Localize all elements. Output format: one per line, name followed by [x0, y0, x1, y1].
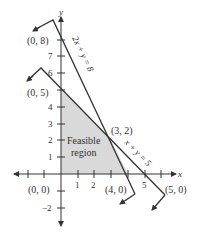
y-tick-3: 3 [48, 119, 53, 129]
linear-programming-graph: x y 1 2 5 −2 1 2 3 4 6 7 (0, 8) (0, 5) (… [0, 0, 197, 238]
y-tick-7: 7 [48, 51, 53, 61]
arrow-x-y-5-bottom [152, 195, 165, 210]
point-label-4-0: (4, 0) [105, 184, 127, 196]
y-tick-4: 4 [48, 102, 53, 112]
equation-label-x-y-5: x + y = 5 [122, 137, 154, 169]
y-tick-6: 6 [48, 68, 53, 78]
equation-label-2x-y-8: 2x + y = 8 [70, 34, 96, 73]
point-label-3-2: (3, 2) [111, 125, 133, 137]
y-tick-2: 2 [48, 135, 53, 145]
x-tick-1: 1 [75, 180, 80, 190]
y-axis-label: y [58, 7, 63, 17]
region-label-line1: Feasible [67, 135, 101, 146]
x-axis-label: x [177, 169, 182, 179]
point-label-0-5: (0, 5) [27, 87, 49, 99]
y-tick-neg2: −2 [42, 203, 52, 213]
point-label-5-0: (5, 0) [165, 184, 187, 196]
point-label-0-8: (0, 8) [27, 35, 49, 47]
graph-canvas: x y 1 2 5 −2 1 2 3 4 6 7 (0, 8) (0, 5) (… [0, 0, 197, 238]
arrow-2x-y-8-bottom [120, 194, 135, 204]
y-tick-1: 1 [48, 152, 53, 162]
arrow-x-y-5-top [27, 76, 33, 81]
arrow-2x-y-8-top [33, 27, 40, 31]
x-tick-5: 5 [142, 180, 147, 190]
point-label-0-0: (0, 0) [28, 184, 50, 196]
region-label-line2: region [71, 147, 97, 158]
x-tick-2: 2 [91, 180, 96, 190]
